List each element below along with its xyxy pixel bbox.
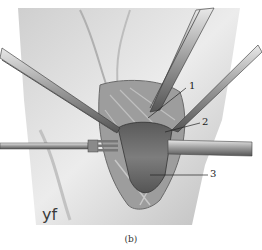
surgical-illustration: 1 2 3 yf (b) bbox=[0, 0, 262, 250]
label-3: 3 bbox=[210, 168, 216, 179]
illustration-graphic bbox=[0, 0, 262, 250]
artist-signature: yf bbox=[42, 205, 57, 224]
label-1: 1 bbox=[189, 80, 195, 91]
label-2: 2 bbox=[202, 116, 208, 127]
figure-caption: (b) bbox=[0, 234, 262, 244]
right-flat-retractor bbox=[168, 140, 252, 156]
